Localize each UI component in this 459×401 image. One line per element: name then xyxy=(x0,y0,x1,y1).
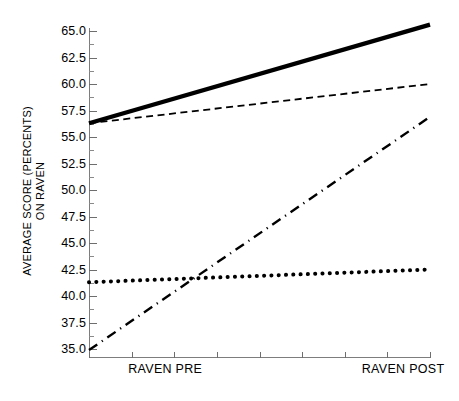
plot-lines xyxy=(0,0,459,401)
series-line-dotted-line xyxy=(89,270,430,283)
raven-score-chart: AVERAGE SCORE (PERCENTS) ON RAVEN 35.037… xyxy=(0,0,459,401)
series-line-solid-line xyxy=(89,25,430,124)
series-line-dash-dot-line xyxy=(89,117,430,350)
series-line-dashed-line xyxy=(89,84,430,123)
